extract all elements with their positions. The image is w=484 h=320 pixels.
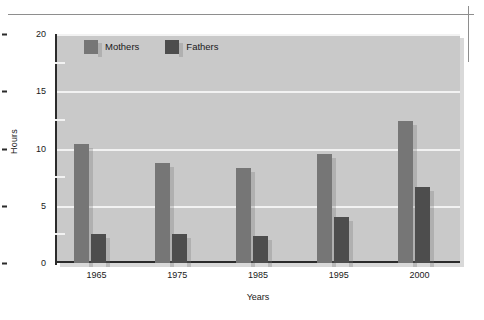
legend-swatch-shadow: [179, 43, 183, 57]
bar-body: [415, 187, 430, 263]
y-axis-minor-tick: [55, 233, 65, 235]
y-axis-minor-tick: [55, 119, 65, 121]
legend-item-fathers: Fathers: [165, 40, 218, 54]
chart-figure: 05101520 Hours MothersFathers 1965197519…: [0, 0, 484, 320]
x-axis-tick-label: 1975: [142, 270, 212, 280]
bar-body: [236, 168, 251, 263]
bar-group: [74, 34, 106, 263]
bars-layer: [56, 34, 460, 263]
bar-body: [317, 154, 332, 263]
y-axis-tick-label: 0: [7, 259, 55, 268]
bar-fathers-1975: [172, 234, 187, 263]
bar-shadow: [430, 191, 434, 267]
x-axis-tick-label: 2000: [385, 270, 455, 280]
legend-swatch-body: [84, 40, 98, 54]
bar-fathers-1965: [91, 234, 106, 263]
bar-fathers-1985: [253, 236, 268, 263]
bar-fathers-2000: [415, 187, 430, 263]
x-axis-tick-label: 1985: [223, 270, 293, 280]
bar-group: [155, 34, 187, 263]
bar-mothers-1985: [236, 168, 251, 263]
y-axis-tick-label: 20: [7, 30, 55, 39]
x-axis-tick-labels: 19651975198519952000: [56, 270, 460, 284]
x-axis-tick-label: 1965: [61, 270, 131, 280]
bar-body: [334, 217, 349, 263]
bar-shadow: [106, 238, 110, 267]
legend-swatch-body: [165, 40, 179, 54]
bar-mothers-1995: [317, 154, 332, 263]
y-axis-minor-tick: [55, 62, 65, 64]
legend-swatch-icon: [165, 40, 179, 54]
chart-legend: MothersFathers: [84, 40, 219, 54]
bar-body: [253, 236, 268, 263]
bar-group: [236, 34, 268, 263]
legend-item-mothers: Mothers: [84, 40, 139, 54]
bar-group: [317, 34, 349, 263]
bar-shadow: [187, 238, 191, 267]
legend-swatch-shadow: [98, 43, 102, 57]
bar-body: [155, 163, 170, 263]
bar-shadow: [349, 221, 353, 267]
bar-fathers-1995: [334, 217, 349, 263]
bar-group: [398, 34, 430, 263]
x-axis-tick-label: 1995: [304, 270, 374, 280]
bar-mothers-1965: [74, 144, 89, 263]
bar-mothers-2000: [398, 121, 413, 263]
legend-swatch-icon: [84, 40, 98, 54]
bar-body: [172, 234, 187, 263]
bar-body: [398, 121, 413, 263]
bar-body: [74, 144, 89, 263]
legend-label: Mothers: [105, 42, 139, 52]
y-axis-tick-label: 5: [7, 201, 55, 210]
legend-label: Fathers: [186, 42, 218, 52]
y-axis-minor-tick: [55, 176, 65, 178]
bar-mothers-1975: [155, 163, 170, 263]
bar-shadow: [268, 240, 272, 267]
y-axis-tick-label: 15: [7, 87, 55, 96]
top-horizontal-rule: [8, 14, 474, 15]
top-vertical-rule: [468, 6, 469, 62]
y-axis-title: Hours: [10, 112, 19, 172]
bar-body: [91, 234, 106, 263]
x-axis-title: Years: [56, 292, 460, 302]
